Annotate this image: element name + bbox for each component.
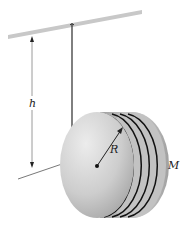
center-point	[95, 164, 99, 168]
height-label: h	[29, 97, 36, 110]
mass-label: M	[167, 159, 180, 172]
arrowhead-up-icon	[30, 36, 34, 42]
arrowhead-down-icon	[30, 162, 34, 168]
height-dimension: h	[29, 36, 36, 168]
yo-yo-diagram: h R M	[0, 0, 190, 226]
radius-label: R	[109, 143, 118, 156]
reference-line	[18, 164, 62, 179]
ceiling-bar	[8, 10, 142, 39]
